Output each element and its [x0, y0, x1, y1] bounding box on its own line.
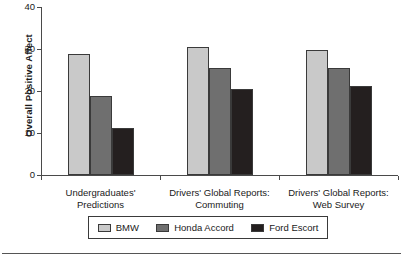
y-axis-tick-label: 30 — [24, 44, 35, 54]
legend-swatch-icon — [98, 224, 111, 232]
bar — [112, 128, 134, 175]
legend-item-label: Ford Escort — [269, 222, 318, 233]
x-axis-category-label: Drivers' Global Reports: Web Survey — [279, 187, 398, 210]
bar — [68, 54, 90, 175]
chart-legend: BMWHonda AccordFord Escort — [88, 216, 328, 239]
legend-item: BMW — [98, 222, 139, 233]
bar — [209, 68, 231, 175]
bar-chart-figure: Overall Positive Affect 010203040 Underg… — [0, 0, 403, 266]
legend-item-label: Honda Accord — [174, 222, 234, 233]
bar — [350, 86, 372, 175]
x-axis-line — [41, 175, 398, 176]
y-axis-tick — [37, 91, 41, 92]
bar — [328, 68, 350, 175]
y-axis-tick — [37, 7, 41, 8]
y-axis-tick-label: 20 — [24, 86, 35, 96]
x-axis-separator-tick — [41, 176, 42, 180]
bar — [231, 89, 253, 175]
y-axis-tick-label: 0 — [30, 170, 35, 180]
y-axis-line — [41, 7, 42, 176]
x-axis-separator-tick — [398, 176, 399, 180]
y-axis-tick-label: 10 — [24, 128, 35, 138]
y-axis-tick — [37, 133, 41, 134]
y-axis-tick-label: 40 — [24, 2, 35, 12]
legend-item: Honda Accord — [156, 222, 234, 233]
y-axis-tick — [37, 49, 41, 50]
x-axis-category-label: Drivers' Global Reports: Commuting — [160, 187, 279, 210]
bar — [306, 50, 328, 175]
footer-rule — [2, 253, 401, 254]
legend-swatch-icon — [251, 224, 264, 232]
x-axis-separator-tick — [279, 176, 280, 180]
bar — [187, 47, 209, 175]
x-axis-category-label: Undergraduates' Predictions — [41, 187, 160, 210]
x-axis-separator-tick — [160, 176, 161, 180]
legend-item: Ford Escort — [251, 222, 318, 233]
plot-area: 010203040 Undergraduates' PredictionsDri… — [41, 7, 398, 175]
bar — [90, 96, 112, 175]
legend-swatch-icon — [156, 224, 169, 232]
legend-item-label: BMW — [116, 222, 139, 233]
